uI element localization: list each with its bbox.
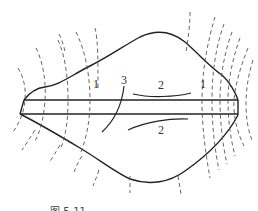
curve-3 — [102, 86, 124, 132]
label-1-left: 1 — [93, 77, 99, 91]
label-2-bottom: 2 — [158, 123, 164, 137]
field-lines-right — [186, 12, 253, 178]
label-1-right: 1 — [200, 77, 206, 91]
curve-2-top — [133, 93, 191, 97]
figure-caption: 图 5-11 ... — [50, 206, 99, 211]
left-tip — [20, 100, 24, 114]
outline-bottom — [20, 114, 238, 182]
label-3: 3 — [121, 73, 127, 87]
label-2-top: 2 — [158, 78, 164, 92]
diagram-canvas: 1 3 2 1 2 图 5-11 ... — [0, 0, 258, 211]
